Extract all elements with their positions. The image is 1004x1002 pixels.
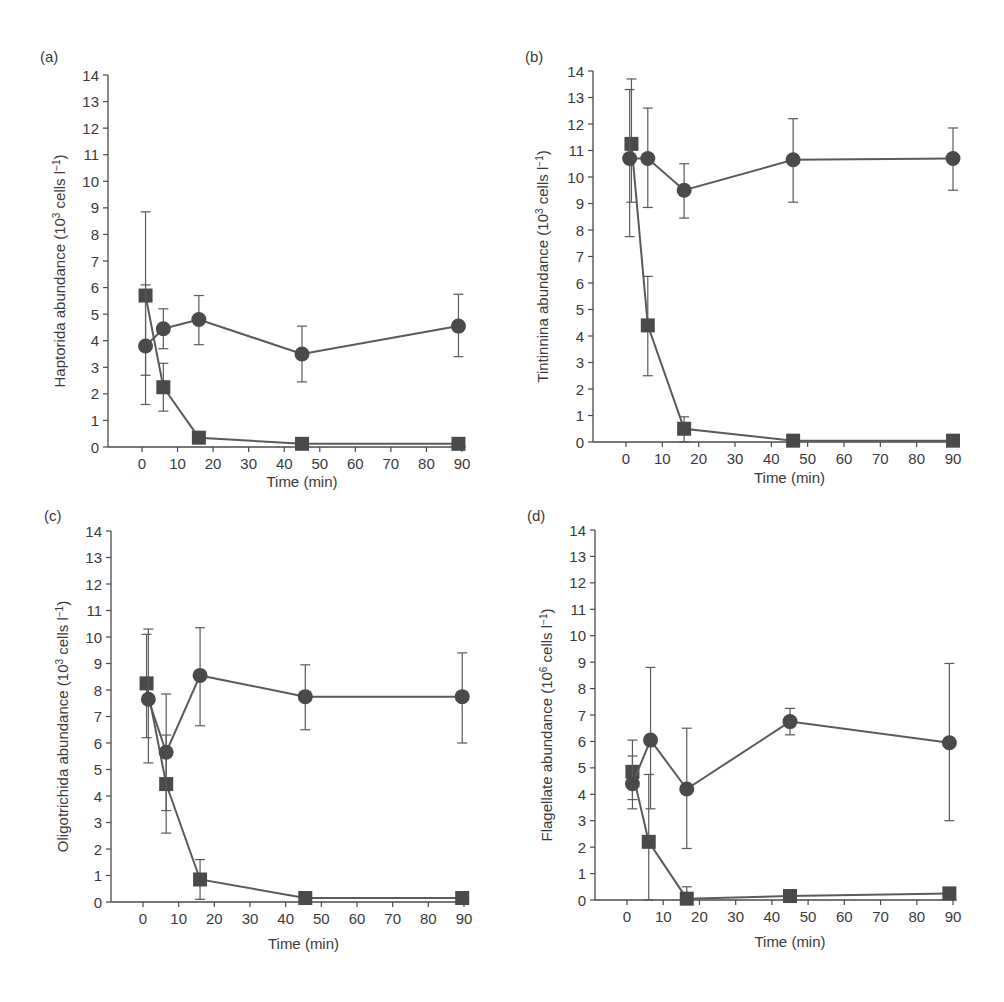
y-axis-label: Flagellate abundance (106 cells l−1) [538, 609, 556, 842]
circle-marker [786, 152, 801, 167]
y-tick-label: 4 [94, 788, 102, 805]
y-tick-label: 0 [91, 439, 99, 456]
square-marker [680, 892, 694, 906]
panel-label: (a) [40, 48, 58, 65]
y-tick-label: 7 [578, 707, 586, 724]
x-tick-label: 30 [242, 910, 259, 927]
x-tick-label: 60 [347, 455, 364, 472]
x-axis-label: Time (min) [754, 933, 825, 950]
x-tick-label: 50 [313, 910, 330, 927]
y-tick-label: 7 [576, 248, 584, 265]
square-marker [942, 886, 956, 900]
y-tick-label: 7 [94, 708, 102, 725]
y-tick-label: 8 [578, 680, 586, 697]
y-tick-label: 8 [94, 682, 102, 699]
y-tick-label: 2 [94, 841, 102, 858]
x-tick-label: 0 [623, 908, 631, 925]
square-marker [455, 891, 469, 905]
x-axis-label: Time (min) [268, 935, 339, 952]
x-tick-label: 40 [763, 450, 780, 467]
y-tick-label: 6 [94, 735, 102, 752]
y-tick-label: 9 [576, 195, 584, 212]
y-tick-label: 13 [82, 93, 99, 110]
x-tick-label: 80 [418, 455, 435, 472]
x-tick-label: 50 [799, 450, 816, 467]
circle-marker [138, 339, 153, 354]
square-marker [192, 431, 206, 445]
x-tick-label: 70 [872, 908, 889, 925]
figure: (a)0123456789101112131401020304050607080… [0, 0, 1004, 1002]
square-marker [783, 889, 797, 903]
y-tick-label: 11 [568, 142, 584, 159]
circle-marker [295, 347, 310, 362]
y-tick-label: 4 [91, 332, 99, 349]
y-tick-label: 3 [578, 812, 586, 829]
y-tick-label: 4 [576, 328, 584, 345]
x-tick-label: 20 [206, 910, 223, 927]
y-tick-label: 10 [82, 173, 99, 190]
y-tick-label: 0 [578, 892, 586, 909]
circle-marker [451, 319, 466, 334]
y-tick-label: 2 [578, 839, 586, 856]
y-tick-label: 5 [578, 759, 586, 776]
y-tick-label: 5 [91, 306, 99, 323]
x-tick-label: 40 [276, 455, 293, 472]
circle-marker [640, 151, 655, 166]
x-tick-label: 20 [691, 908, 708, 925]
series-square [140, 634, 470, 905]
y-tick-label: 9 [578, 654, 586, 671]
x-tick-label: 60 [349, 910, 366, 927]
x-tick-label: 90 [456, 910, 473, 927]
x-tick-label: 10 [170, 910, 187, 927]
y-tick-label: 12 [569, 574, 586, 591]
y-tick-label: 9 [94, 655, 102, 672]
circle-marker [643, 733, 658, 748]
y-tick-label: 10 [567, 169, 584, 186]
series-circle [622, 90, 960, 237]
circle-marker [191, 312, 206, 327]
x-tick-label: 50 [311, 455, 328, 472]
y-tick-label: 11 [570, 601, 586, 618]
y-tick-label: 2 [91, 385, 99, 402]
x-tick-label: 0 [139, 910, 147, 927]
y-tick-label: 10 [569, 627, 586, 644]
panel-a: (a)0123456789101112131401020304050607080… [40, 48, 470, 490]
x-tick-label: 60 [836, 908, 853, 925]
y-tick-label: 2 [576, 381, 584, 398]
y-tick-label: 14 [82, 67, 99, 84]
x-tick-label: 80 [908, 450, 925, 467]
series-circle [138, 285, 466, 405]
square-marker [451, 437, 465, 451]
x-tick-label: 90 [454, 455, 471, 472]
circle-marker [783, 714, 798, 729]
y-axis-label: Oligotrichida abundance (103 cells l−1) [54, 601, 72, 852]
circle-marker [455, 689, 470, 704]
circle-marker [625, 776, 640, 791]
y-tick-label: 3 [94, 814, 102, 831]
x-tick-label: 90 [945, 450, 962, 467]
x-tick-label: 70 [383, 455, 400, 472]
square-marker [295, 437, 309, 451]
x-tick-label: 0 [138, 455, 146, 472]
y-tick-label: 8 [576, 222, 584, 239]
circle-marker [942, 735, 957, 750]
y-axis-label: Haptorida abundance (103 cells l−1) [51, 155, 69, 388]
circle-marker [679, 782, 694, 797]
x-tick-label: 40 [764, 908, 781, 925]
panel-label: (b) [525, 48, 543, 65]
y-tick-label: 5 [576, 301, 584, 318]
y-tick-label: 1 [578, 865, 586, 882]
x-tick-label: 80 [420, 910, 437, 927]
x-tick-label: 50 [800, 908, 817, 925]
circle-marker [193, 668, 208, 683]
x-tick-label: 90 [945, 908, 962, 925]
square-marker [298, 891, 312, 905]
x-axis-label: Time (min) [754, 469, 825, 486]
square-marker [140, 676, 154, 690]
y-tick-label: 1 [576, 407, 584, 424]
circle-marker [946, 151, 961, 166]
y-tick-label: 6 [91, 279, 99, 296]
y-tick-label: 3 [91, 359, 99, 376]
y-tick-label: 8 [91, 226, 99, 243]
square-marker [946, 434, 960, 448]
